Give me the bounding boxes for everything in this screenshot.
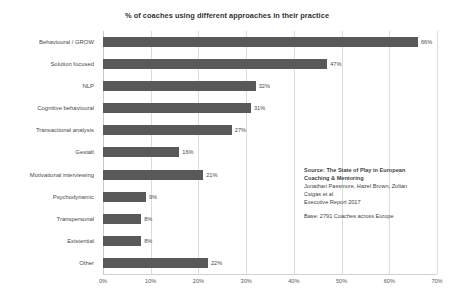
category-label: Existential xyxy=(0,238,94,244)
source-line-3: Jonathan Passmore, Hazel Brown, Zoltan xyxy=(304,182,446,190)
source-line-5: Executive Report 2017 xyxy=(304,198,446,206)
bar-value-label: 22% xyxy=(211,260,222,266)
bar-row: Gestalt16% xyxy=(103,141,437,163)
bar-value-label: 47% xyxy=(330,61,341,67)
bar-value-label: 8% xyxy=(144,238,152,244)
category-label: Transactional analysis xyxy=(0,127,94,133)
category-label: Behavioural / GROW xyxy=(0,39,94,45)
bar-row: Existential8% xyxy=(103,230,437,252)
x-axis-line xyxy=(103,274,437,275)
bar-chart: % of coaches using different approaches … xyxy=(0,0,454,299)
bar-value-label: 31% xyxy=(254,105,265,111)
bar xyxy=(103,147,179,157)
source-line-1: Source: The State of Play in European xyxy=(304,166,446,174)
category-label: NLP xyxy=(0,83,94,89)
bar xyxy=(103,170,203,180)
x-tick-label: 50% xyxy=(336,278,347,284)
bar xyxy=(103,214,141,224)
plot-area: Behavioural / GROW66%Solution focused47%… xyxy=(103,31,437,274)
x-tick-label: 20% xyxy=(193,278,204,284)
x-tick-label: 70% xyxy=(431,278,442,284)
bar-row: Cognitive behavioural31% xyxy=(103,97,437,119)
bar-value-label: 16% xyxy=(182,149,193,155)
source-line-4: Csigas et al xyxy=(304,190,446,198)
x-tick-label: 10% xyxy=(145,278,156,284)
x-tick-label: 60% xyxy=(384,278,395,284)
bar-value-label: 9% xyxy=(149,194,157,200)
bar-row: Solution focused47% xyxy=(103,53,437,75)
bar-value-label: 8% xyxy=(144,216,152,222)
category-label: Solution focused xyxy=(0,61,94,67)
bar-value-label: 27% xyxy=(235,127,246,133)
bar xyxy=(103,59,327,69)
bar xyxy=(103,81,256,91)
x-tick-label: 0% xyxy=(99,278,107,284)
bar-row: Transactional analysis27% xyxy=(103,119,437,141)
bar-row: NLP32% xyxy=(103,75,437,97)
bar-value-label: 66% xyxy=(421,39,432,45)
x-tick-label: 40% xyxy=(288,278,299,284)
chart-title: % of coaches using different approaches … xyxy=(0,11,454,20)
category-label: Motivational interviewing xyxy=(0,172,94,178)
category-label: Psychodynamic xyxy=(0,194,94,200)
bar xyxy=(103,37,418,47)
bar xyxy=(103,192,146,202)
category-label: Transpersonal xyxy=(0,216,94,222)
bar xyxy=(103,236,141,246)
bar xyxy=(103,125,232,135)
bar xyxy=(103,103,251,113)
gridline-70pct xyxy=(437,31,438,274)
bar-value-label: 21% xyxy=(206,172,217,178)
base-line: Base: 2791 Coaches across Europe xyxy=(304,212,446,220)
bar-value-label: 32% xyxy=(259,83,270,89)
bar-row: Other22% xyxy=(103,252,437,274)
source-annotation: Source: The State of Play in European Co… xyxy=(304,166,446,221)
x-tick-label: 30% xyxy=(241,278,252,284)
category-label: Cognitive behavioural xyxy=(0,105,94,111)
bar xyxy=(103,258,208,268)
bar-row: Behavioural / GROW66% xyxy=(103,31,437,53)
source-line-2: Coaching & Mentoring xyxy=(304,174,446,182)
category-label: Other xyxy=(0,260,94,266)
category-label: Gestalt xyxy=(0,149,94,155)
